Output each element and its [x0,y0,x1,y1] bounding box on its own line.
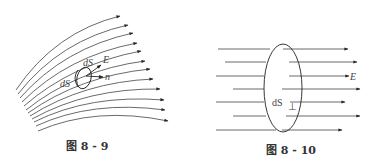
figure-8-10 [216,44,360,132]
caption-fig-8-10: 图 8 - 10 [266,144,316,157]
label-perp-subscript: ⊥ [288,101,297,112]
figure-canvas: dS dS E n 图 8 - 9 dS ⊥ E 图 8 - 10 [0,0,373,168]
label-ds-left: dS [60,78,70,89]
figure-8-9 [16,16,168,131]
label-e-right: E [349,71,356,82]
field-line [36,107,165,126]
normal-vector [86,76,103,77]
surface-element-dS-perp [264,44,302,132]
caption-fig-8-9: 图 8 - 9 [66,140,108,153]
label-e: E [102,54,109,65]
label-ds-perp: dS [272,97,283,108]
label-n: n [105,71,110,82]
label-ds-top: dS [83,57,93,68]
